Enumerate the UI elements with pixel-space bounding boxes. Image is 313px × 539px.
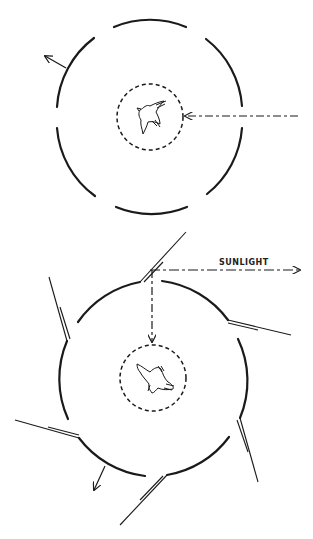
mirror-top <box>140 232 186 282</box>
bottom-panel <box>15 232 300 525</box>
diagram-canvas <box>0 0 313 539</box>
mirror-left-upper <box>49 277 70 341</box>
outgoing-arrow-bottom <box>94 466 105 490</box>
mirrors <box>15 232 291 525</box>
mirror-left-lower <box>15 420 79 438</box>
sunlight-label: SUNLIGHT <box>219 258 269 267</box>
mirror-bottom <box>120 475 167 525</box>
bird-icon <box>137 101 166 134</box>
top-inner-dashed-circle <box>117 84 183 150</box>
top-panel <box>45 20 298 214</box>
bottom-outer-ring <box>59 281 247 476</box>
mirror-right-lower <box>237 418 258 482</box>
mirror-right-upper <box>228 320 291 335</box>
bird-icon-bottom <box>137 364 174 393</box>
bottom-inner-dashed-circle <box>120 345 186 411</box>
outgoing-arrow <box>45 56 66 68</box>
top-outer-ring <box>57 20 242 214</box>
